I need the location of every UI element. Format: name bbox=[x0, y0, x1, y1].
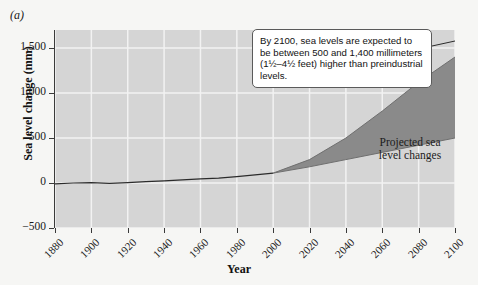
x-tick bbox=[164, 228, 165, 233]
y-tick-label: −500 bbox=[0, 220, 46, 232]
y-tick bbox=[49, 138, 54, 139]
y-tick bbox=[49, 48, 54, 49]
x-tick bbox=[382, 228, 383, 233]
x-tick bbox=[91, 228, 92, 233]
y-tick bbox=[49, 183, 54, 184]
x-tick bbox=[273, 228, 274, 233]
x-tick bbox=[200, 228, 201, 233]
y-tick bbox=[49, 228, 54, 229]
callout-box: By 2100, sea levels are expected to be b… bbox=[252, 29, 432, 88]
x-tick bbox=[310, 228, 311, 233]
x-axis-title: Year bbox=[0, 262, 478, 277]
y-tick-label: 500 bbox=[0, 130, 46, 142]
y-tick bbox=[49, 93, 54, 94]
x-tick bbox=[237, 228, 238, 233]
series-label-line2: level changes bbox=[379, 149, 441, 161]
y-tick-label: 1,500 bbox=[0, 40, 46, 52]
y-tick-label: 1,000 bbox=[0, 85, 46, 97]
x-tick bbox=[55, 228, 56, 233]
series-label-line1: Projected sea bbox=[380, 136, 441, 148]
y-tick-label: 0 bbox=[0, 175, 46, 187]
x-tick bbox=[419, 228, 420, 233]
x-tick bbox=[455, 228, 456, 233]
y-axis-line bbox=[54, 30, 55, 228]
sea-level-figure: (a) Sea level change (mm) Projected sea … bbox=[0, 0, 478, 285]
panel-label: (a) bbox=[10, 8, 24, 23]
x-tick bbox=[346, 228, 347, 233]
series-label: Projected sea level changes bbox=[355, 136, 455, 162]
x-tick bbox=[128, 228, 129, 233]
